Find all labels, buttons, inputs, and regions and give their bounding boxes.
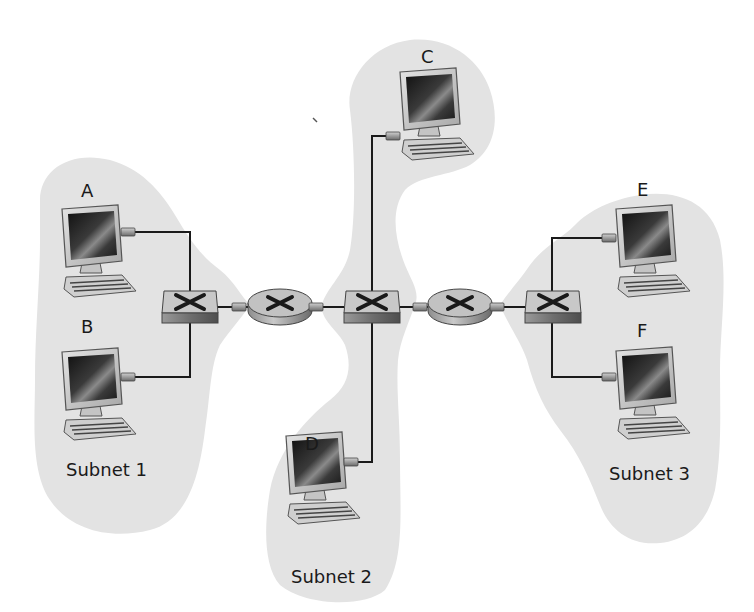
network-diagram: A B C D E F Subnet 1 Subnet 2 Subnet 3 — [0, 0, 754, 612]
diagram-graphics — [0, 0, 754, 612]
host-C-port — [386, 132, 400, 140]
host-F-label: F — [637, 320, 647, 341]
switch-3[interactable] — [525, 291, 581, 323]
switch-2[interactable] — [344, 291, 400, 323]
host-F-port — [602, 373, 616, 381]
router-2[interactable] — [428, 289, 492, 325]
subnet-2-label: Subnet 2 — [291, 566, 372, 587]
router-1[interactable] — [248, 289, 312, 325]
host-B-port — [121, 373, 135, 381]
host-E-label: E — [637, 179, 648, 200]
router-2-left-port — [413, 303, 427, 311]
subnet-3-label: Subnet 3 — [609, 463, 690, 484]
host-B-label: B — [81, 316, 93, 337]
host-C-label: C — [421, 46, 434, 67]
switch-1[interactable] — [162, 291, 218, 323]
host-A-label: A — [81, 180, 93, 201]
subnet-3-region — [500, 194, 724, 544]
host-D-port — [344, 458, 358, 466]
host-D-label: D — [305, 433, 319, 454]
subnet-1-label: Subnet 1 — [66, 459, 147, 480]
host-E-port — [602, 234, 616, 242]
router-2-right-port — [490, 303, 504, 311]
host-A-port — [121, 228, 135, 236]
router-1-left-port — [232, 303, 246, 311]
router-1-right-port — [309, 303, 323, 311]
stray-mark — [313, 118, 317, 122]
